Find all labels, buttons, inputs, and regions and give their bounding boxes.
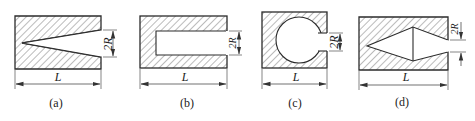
panel-d: 2R L (d) (359, 17, 466, 109)
notch-geometry-figure: 2R L (a) 2R L (b) 2R L (c) (0, 0, 475, 121)
panel-c: 2R L (c) (262, 12, 343, 110)
opening-label-c: 2R (327, 35, 341, 49)
opening-label-a: 2R (101, 37, 115, 51)
length-label-d: L (402, 70, 410, 84)
panel-b: 2R L (b) (140, 16, 242, 110)
caption-a: (a) (49, 96, 62, 110)
length-label-b: L (181, 70, 189, 84)
panel-a: 2R L (a) (15, 16, 117, 110)
opening-label-d: 2R (449, 23, 460, 34)
slot-b (156, 31, 227, 55)
caption-c: (c) (288, 96, 301, 110)
length-label-c: L (292, 70, 300, 84)
opening-label-b: 2R (227, 37, 238, 48)
caption-b: (b) (180, 96, 194, 110)
length-label-a: L (54, 70, 62, 84)
caption-d: (d) (395, 95, 409, 109)
